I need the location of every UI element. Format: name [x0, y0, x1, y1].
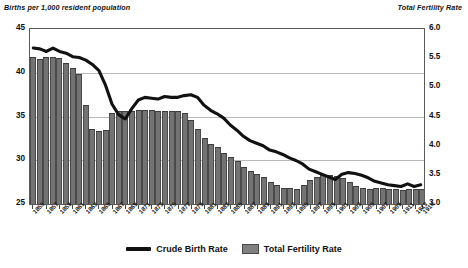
x-axis-labels: 1855185718591861186318651867186918711873… — [0, 0, 468, 268]
x-axis-tick-label: 1905 — [361, 200, 376, 215]
x-axis-tick-label: 1883 — [216, 200, 231, 215]
x-axis-tick-label: 1897 — [309, 200, 324, 215]
bar-swatch-icon — [242, 244, 259, 254]
x-axis-tick-label: 1863 — [84, 200, 99, 215]
chart-container: Births per 1,000 resident population Tot… — [0, 0, 468, 268]
x-axis-tick-label: 1881 — [203, 200, 218, 215]
x-axis-tick-label: 1865 — [97, 200, 112, 215]
x-axis-tick-label: 1879 — [190, 200, 205, 215]
x-axis-tick-label: 1877 — [177, 200, 192, 215]
x-axis-tick-label: 1903 — [348, 200, 363, 215]
x-axis-tick-label: 1895 — [295, 200, 310, 215]
x-axis-tick-label: 1871 — [137, 200, 152, 215]
x-axis-tick-label: 1861 — [71, 200, 86, 215]
x-axis-tick-label: 1855 — [31, 200, 46, 215]
x-axis-tick-label: 1885 — [229, 200, 244, 215]
x-axis-tick-label: 1891 — [269, 200, 284, 215]
x-axis-tick-label: 1899 — [322, 200, 337, 215]
legend-label-crude-birth-rate: Crude Birth Rate — [156, 244, 228, 254]
x-axis-tick-label: 1867 — [111, 200, 126, 215]
x-axis-tick-label: 1857 — [45, 200, 60, 215]
x-axis-tick-label: 1873 — [150, 200, 165, 215]
x-axis-tick-label: 1869 — [124, 200, 139, 215]
x-axis-tick-label: 1893 — [282, 200, 297, 215]
x-axis-tick-label: 1859 — [58, 200, 73, 215]
x-axis-tick-label: 1909 — [388, 200, 403, 215]
legend-label-total-fertility-rate: Total Fertility Rate — [264, 244, 342, 254]
x-axis-tick-label: 1889 — [256, 200, 271, 215]
legend-item-crude-birth-rate[interactable]: Crude Birth Rate — [126, 244, 228, 254]
x-axis-tick-label: 1887 — [243, 200, 258, 215]
x-axis-tick-label: 1875 — [163, 200, 178, 215]
x-axis-tick-label: 1911 — [401, 201, 415, 215]
chart-legend: Crude Birth Rate Total Fertility Rate — [0, 244, 468, 254]
x-axis-tick-label: 1901 — [335, 200, 350, 215]
line-swatch-icon — [126, 247, 151, 251]
x-axis-tick-label: 1907 — [375, 200, 390, 215]
legend-item-total-fertility-rate[interactable]: Total Fertility Rate — [242, 244, 342, 254]
